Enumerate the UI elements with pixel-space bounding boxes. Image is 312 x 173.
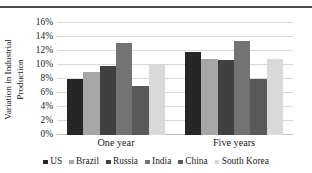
legend-label: Brazil (76, 157, 99, 166)
bar (67, 79, 83, 135)
y-axis-title-line1: Variation in Industrial (3, 39, 15, 120)
legend-label: Russia (113, 157, 138, 166)
y-axis-tick-label: 16% (36, 18, 53, 27)
bar (185, 52, 201, 135)
bar (218, 60, 234, 135)
legend-item[interactable]: Russia (106, 157, 138, 166)
y-axis-tick-labels: 0%2%4%6%8%10%12%14%16% (26, 23, 55, 135)
bar (132, 86, 148, 135)
bar (201, 59, 217, 135)
legend-swatch-icon (43, 160, 48, 165)
chart-legend: USBrazilRussiaIndiaChinaSouth Korea (0, 155, 312, 169)
bar (83, 72, 99, 135)
legend-swatch-icon (106, 160, 111, 165)
legend-swatch-icon (215, 160, 220, 165)
legend-label: India (152, 157, 171, 166)
y-axis-tick-label: 2% (41, 116, 54, 125)
legend-swatch-icon (178, 160, 183, 165)
top-divider (0, 6, 312, 8)
bar (234, 41, 250, 135)
bar (116, 43, 132, 135)
bar (149, 64, 165, 135)
y-axis-title: Variation in Industrial Production (2, 23, 26, 135)
x-axis-category-label: Five years (213, 137, 255, 149)
plot-area (57, 23, 293, 135)
legend-label: South Korea (222, 157, 269, 166)
bar (100, 66, 116, 135)
legend-item[interactable]: Brazil (69, 157, 99, 166)
legend-swatch-icon (145, 160, 150, 165)
x-axis-category-label: One year (97, 137, 134, 149)
bar-group (175, 23, 293, 135)
y-axis-tick-label: 0% (41, 130, 54, 139)
legend-item[interactable]: US (43, 157, 62, 166)
legend-label: China (185, 157, 207, 166)
bar (250, 79, 266, 135)
legend-swatch-icon (69, 160, 74, 165)
y-axis-tick-label: 12% (36, 46, 53, 55)
legend-item[interactable]: India (145, 157, 171, 166)
y-axis-tick-label: 6% (41, 88, 54, 97)
bar-chart: Variation in Industrial Production 0%2%4… (0, 9, 312, 173)
legend-label: US (50, 157, 62, 166)
legend-item[interactable]: China (178, 157, 207, 166)
y-axis-title-line2: Production (14, 39, 26, 120)
x-axis-category-labels: One yearFive years (57, 137, 293, 151)
y-axis-tick-label: 10% (36, 60, 53, 69)
y-axis-tick-label: 8% (41, 74, 54, 83)
y-axis-tick-label: 4% (41, 102, 54, 111)
y-axis-tick-label: 14% (36, 32, 53, 41)
bar (267, 59, 283, 135)
legend-item[interactable]: South Korea (215, 157, 269, 166)
bar-group (57, 23, 175, 135)
